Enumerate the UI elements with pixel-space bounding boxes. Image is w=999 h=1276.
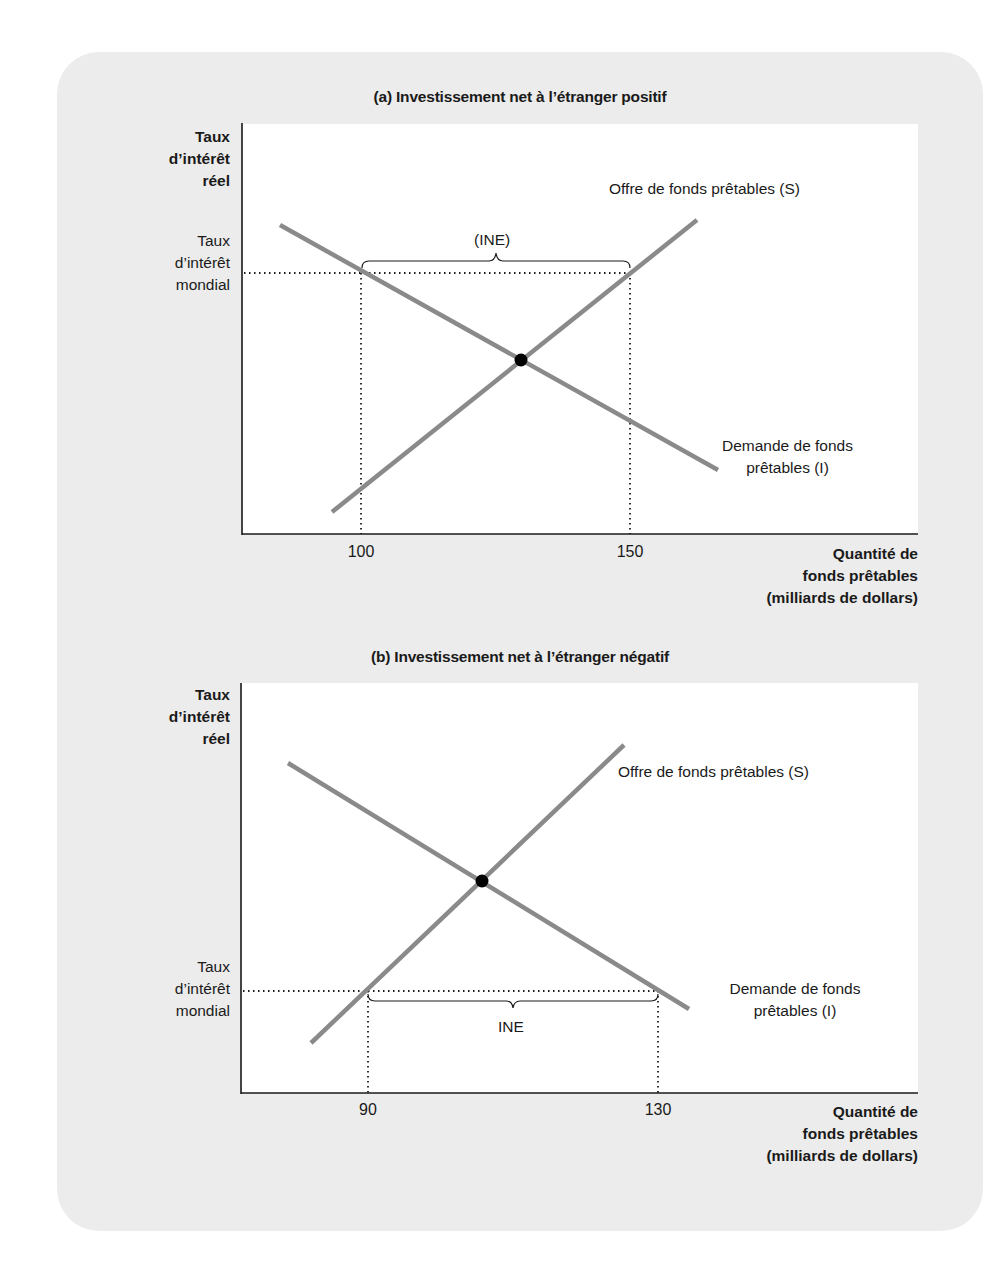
panel-a-ine-brace	[362, 253, 630, 268]
panel-a-equilibrium-dot	[515, 354, 528, 367]
panel-a-supply-curve	[332, 220, 697, 512]
panel-b-supply-curve	[311, 745, 624, 1043]
panel-a-axes	[242, 123, 918, 535]
panel-b-ine-brace	[368, 994, 658, 1008]
chart-graphics	[0, 0, 999, 1276]
panel-b-equilibrium-dot	[476, 875, 489, 888]
panel-a-demand-curve	[280, 225, 718, 470]
panel-b-axes	[241, 683, 918, 1094]
panel-b-demand-curve	[288, 763, 689, 1009]
panel-b-world-rate-guides	[243, 991, 658, 1093]
